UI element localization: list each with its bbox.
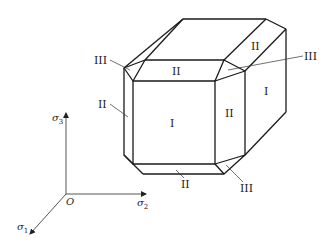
label-right-side-I: I bbox=[264, 85, 268, 98]
sigma2-label: σ2 bbox=[137, 197, 148, 211]
label-corner-top-right-III: III bbox=[304, 50, 317, 63]
label-bottom-II: II bbox=[181, 178, 190, 191]
sigma1-axis bbox=[30, 194, 66, 234]
polyhedron bbox=[124, 19, 286, 174]
sigma3-label: σ3 bbox=[52, 112, 63, 126]
sigma1-label: σ1 bbox=[17, 221, 28, 235]
face-corner-top-right-III bbox=[215, 60, 245, 81]
leader-lines bbox=[110, 56, 303, 182]
face-corner-top-left-III bbox=[124, 60, 145, 81]
face-labels: I I II II II II II III III III bbox=[94, 40, 317, 195]
label-front-right-II: II bbox=[225, 107, 234, 120]
label-corner-bottom-right-III: III bbox=[240, 182, 253, 195]
label-left-II: II bbox=[98, 98, 107, 111]
stress-space-polyhedron-diagram: O σ3 σ2 σ1 bbox=[0, 0, 332, 250]
label-corner-top-left-III: III bbox=[94, 54, 107, 67]
label-front-I: I bbox=[170, 117, 174, 130]
label-top-right-II: II bbox=[251, 40, 260, 53]
label-top-front-II: II bbox=[172, 65, 181, 78]
origin-label: O bbox=[66, 196, 74, 207]
face-corner-bottom-right-III bbox=[215, 155, 245, 174]
coordinate-axes: O σ3 σ2 σ1 bbox=[17, 112, 148, 235]
